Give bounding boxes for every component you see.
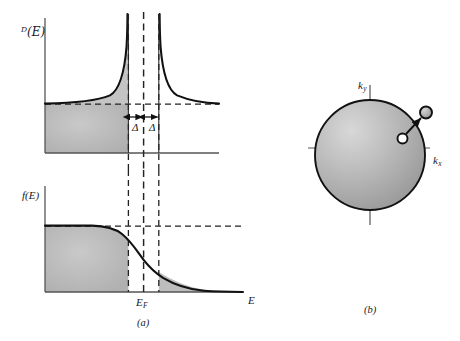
energy-axis-label: E [248, 295, 255, 306]
figure-canvas [0, 0, 460, 341]
fermi-sphere-circle [315, 100, 425, 210]
dos-curve-upper-branch [160, 14, 219, 104]
ky-axis-label: ky [358, 80, 367, 93]
kx-axis-label: kx [433, 155, 442, 168]
delta-label-right: Δ [149, 122, 155, 133]
panel-b-caption: (b) [364, 305, 376, 316]
panel-a-caption: (a) [137, 318, 149, 329]
fermi-axis-label: f(E) [22, 190, 39, 201]
delta-label-left: Δ [132, 122, 138, 133]
dos-axis-label: ᴰ(E) [21, 26, 45, 38]
fermi-energy-label-subscript: F [143, 301, 148, 310]
panel-b-fermi-sphere [308, 85, 432, 225]
excited-electron-circle [420, 107, 432, 119]
panel-a-top-density-of-states [45, 12, 219, 170]
fermi-energy-label-base: E [136, 296, 143, 308]
fermi-shaded-occupied-region [45, 226, 128, 292]
figure-container: ᴰ(E) Δ Δ f(E) EF E (a) ky kx (b) [0, 0, 460, 341]
panel-a-bottom-fermi-function [45, 170, 243, 292]
dos-curve-lower-branch [45, 14, 128, 104]
hole-circle [398, 134, 408, 144]
ky-axis-label-subscript: y [363, 84, 367, 93]
dos-shaded-occupied-region [45, 40, 128, 153]
kx-axis-label-subscript: x [438, 159, 442, 168]
fermi-energy-label: EF [136, 297, 148, 310]
